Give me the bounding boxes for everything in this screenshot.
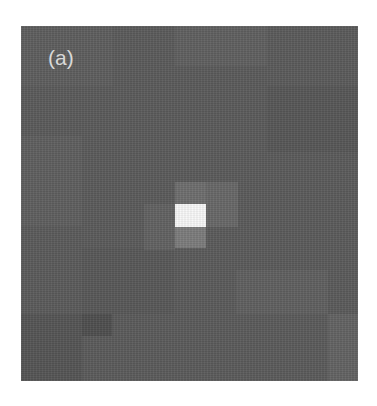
background-block <box>175 26 267 66</box>
background-block <box>82 248 174 314</box>
background-block <box>82 314 112 336</box>
halo-below-cell <box>175 227 206 248</box>
halo-left-cell <box>144 204 175 250</box>
figure-panel: (a) <box>21 26 358 381</box>
halo-right-cell <box>206 182 238 227</box>
background-block <box>21 314 82 381</box>
background-block <box>21 136 82 226</box>
panel-label: (a) <box>48 46 74 70</box>
background-block <box>236 270 328 314</box>
background-block <box>328 314 358 381</box>
center-peak-cell <box>175 204 206 227</box>
halo-above-cell <box>175 182 206 204</box>
background-block <box>267 86 358 152</box>
